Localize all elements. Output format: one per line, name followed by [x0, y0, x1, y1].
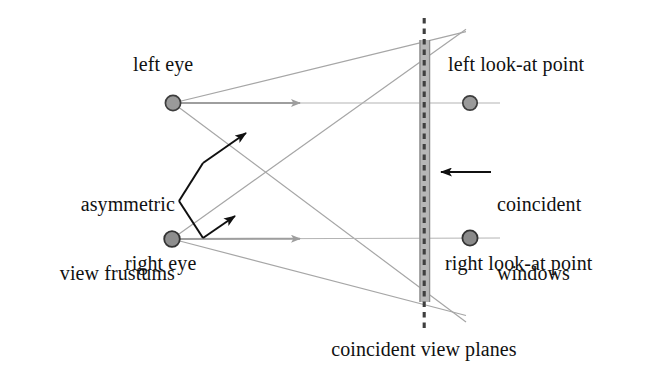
asymmetric-view-frustums-label: asymmetric view frustums [0, 147, 175, 331]
asymmetric-view-frustums-label-line1: asymmetric [0, 193, 175, 216]
right-gaze-axis [172, 238, 500, 239]
frustums-leader-lower-arrow [203, 216, 235, 238]
coincident-view-planes-caption: coincident view planes [238, 338, 610, 361]
left-eye-label: left eye [133, 53, 193, 76]
left-eye-dot [165, 95, 180, 110]
stereo-frustum-diagram: left eye right eye left look-at point ri… [0, 0, 662, 376]
coincident-windows-label: coincident windows [497, 147, 581, 331]
frustums-leader-elbow-upper-stem [179, 163, 203, 201]
asymmetric-view-frustums-label-line2: view frustums [0, 262, 175, 285]
left-look-at-point-dot [463, 96, 477, 110]
asymmetric-view-frustums-leader [179, 133, 246, 238]
left-look-at-point-label: left look-at point [448, 53, 584, 76]
coincident-windows-label-line2: windows [497, 262, 581, 285]
right-look-at-point-dot [462, 230, 477, 245]
frustums-leader-upper-arrow [203, 133, 246, 163]
coincident-windows-label-line1: coincident [497, 193, 581, 216]
